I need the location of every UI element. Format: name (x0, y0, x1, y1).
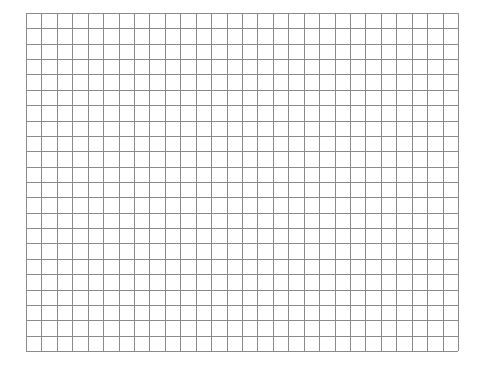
grid-paper (25, 12, 459, 352)
